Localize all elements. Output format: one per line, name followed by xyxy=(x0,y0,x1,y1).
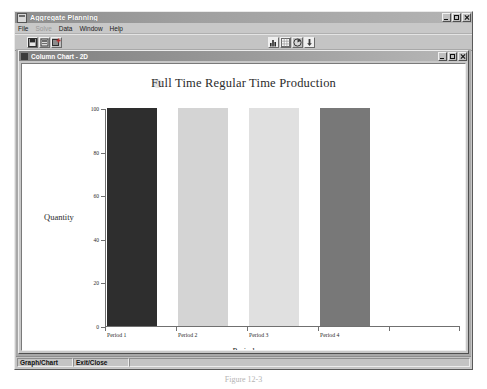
application-icon xyxy=(17,13,27,23)
chart-document-icon xyxy=(21,53,28,60)
status-cell-exit-close[interactable]: Exit/Close xyxy=(73,358,129,367)
menu-item-file[interactable]: File xyxy=(18,25,28,32)
x-axis-tick xyxy=(176,326,177,331)
pie-chart-icon[interactable] xyxy=(292,37,303,48)
x-axis-tick xyxy=(318,326,319,331)
y-axis-tick xyxy=(101,240,106,241)
chart-bar[interactable] xyxy=(107,108,157,326)
table-grid-icon[interactable] xyxy=(280,37,291,48)
plot-area: 020406080100Period 1Period 2Period 3Peri… xyxy=(105,109,460,327)
x-axis-tick-label: Period 2 xyxy=(178,332,197,338)
y-axis-tick-label: 60 xyxy=(94,193,100,199)
maximize-icon xyxy=(450,54,455,59)
x-axis-tick xyxy=(389,326,390,331)
status-cell-message xyxy=(129,358,470,367)
x-axis-label: Period xyxy=(22,346,465,351)
y-axis-tick-label: 40 xyxy=(94,237,100,243)
chart-bar[interactable] xyxy=(249,108,299,326)
y-axis-line xyxy=(105,109,106,327)
chart-child-window: Column Chart - 2D Full Time Regular Time… xyxy=(18,50,469,354)
y-axis-tick-label: 20 xyxy=(94,280,100,286)
x-axis-tick-label: Period 1 xyxy=(107,332,126,338)
menu-item-window[interactable]: Window xyxy=(79,25,102,32)
chart-maximize-button[interactable] xyxy=(448,52,457,61)
x-axis-line xyxy=(105,326,460,327)
x-axis-tick xyxy=(105,326,106,331)
menu-item-solve: Solve xyxy=(35,25,51,32)
menu-bar: File Solve Data Window Help xyxy=(15,23,472,34)
minimize-icon xyxy=(444,19,448,20)
mdi-client-area: Column Chart - 2D Full Time Regular Time… xyxy=(16,49,471,356)
window-title-bar[interactable]: Aggregate Planning xyxy=(15,12,472,23)
y-axis-tick xyxy=(101,109,106,110)
y-axis-tick xyxy=(101,196,106,197)
x-axis-tick-label: Period 4 xyxy=(320,332,339,338)
chart-window-title: Column Chart - 2D xyxy=(31,53,438,60)
figure-caption: Figure 12-3 xyxy=(0,375,487,384)
y-axis-tick-label: 100 xyxy=(91,106,99,112)
x-axis-tick xyxy=(247,326,248,331)
minimize-button[interactable] xyxy=(442,13,451,22)
menu-item-help[interactable]: Help xyxy=(110,25,123,32)
menu-item-data[interactable]: Data xyxy=(59,25,73,32)
window-controls xyxy=(442,13,471,22)
bar-chart-icon[interactable] xyxy=(268,37,279,48)
chart-title: Full Time Regular Time Production xyxy=(22,76,465,91)
y-axis-tick xyxy=(101,153,106,154)
minimize-icon xyxy=(440,58,444,59)
toolbar-group-charts xyxy=(268,37,315,48)
chart-bar[interactable] xyxy=(320,108,370,326)
save-icon[interactable] xyxy=(27,37,38,48)
y-axis-tick-label: 80 xyxy=(94,150,100,156)
close-button[interactable] xyxy=(462,13,471,22)
x-axis-tick-label: Period 3 xyxy=(249,332,268,338)
chart-close-button[interactable] xyxy=(458,52,467,61)
chart-window-title-bar[interactable]: Column Chart - 2D xyxy=(19,51,468,61)
chart-window-controls xyxy=(438,52,467,61)
chart-canvas: Full Time Regular Time Production Quanti… xyxy=(21,63,466,351)
status-cell-graph-chart[interactable]: Graph/Chart xyxy=(17,358,73,367)
window-title: Aggregate Planning xyxy=(30,14,442,21)
maximize-icon xyxy=(454,15,459,20)
toolbar-group-file xyxy=(27,37,62,48)
application-window: Aggregate Planning File Solve Data Windo… xyxy=(14,11,473,370)
y-axis-label: Quantity xyxy=(44,212,74,222)
status-bar: Graph/Chart Exit/Close xyxy=(16,356,471,368)
x-axis-tick xyxy=(459,326,460,331)
chart-bar[interactable] xyxy=(178,108,228,326)
new-record-icon[interactable] xyxy=(51,37,62,48)
export-icon[interactable] xyxy=(304,37,315,48)
chart-minimize-button[interactable] xyxy=(438,52,447,61)
y-axis-tick xyxy=(101,283,106,284)
maximize-button[interactable] xyxy=(452,13,461,22)
print-icon[interactable] xyxy=(39,37,50,48)
y-axis-tick-label: 0 xyxy=(96,324,99,330)
